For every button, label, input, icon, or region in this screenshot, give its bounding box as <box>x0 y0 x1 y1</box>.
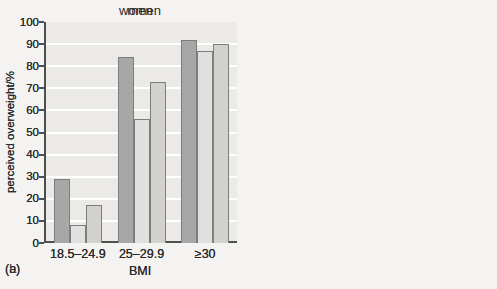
y-tick-label: 10 <box>13 214 39 227</box>
y-tick-label: 90 <box>13 38 39 51</box>
y-tick <box>39 87 44 89</box>
figure: men perceived overweight/% BMI (a) 01020… <box>0 0 497 289</box>
y-tick <box>39 220 44 222</box>
gridline <box>46 43 237 45</box>
y-tick-label: 80 <box>13 60 39 73</box>
panel-women: women perceived overweight/% BMI (b) 010… <box>0 0 249 289</box>
y-tick <box>39 43 44 45</box>
y-tick <box>39 132 44 134</box>
bar-white <box>54 179 70 243</box>
x-axis-title: BMI <box>129 264 151 278</box>
y-tick-label: 50 <box>13 126 39 139</box>
bar-hispanic <box>213 44 229 243</box>
chart-title: women <box>119 3 161 18</box>
y-tick <box>39 21 44 23</box>
bar-white <box>181 40 197 243</box>
y-tick <box>39 154 44 156</box>
y-tick-label: 20 <box>13 192 39 205</box>
y-tick-label: 60 <box>13 104 39 117</box>
bar-hispanic <box>86 205 102 243</box>
y-tick <box>39 65 44 67</box>
y-tick-label: 70 <box>13 82 39 95</box>
y-tick <box>39 109 44 111</box>
y-tick-label: 40 <box>13 148 39 161</box>
bar-black <box>197 51 213 243</box>
y-tick-label: 100 <box>13 16 39 29</box>
bar-black <box>134 119 150 243</box>
bar-black <box>70 225 86 243</box>
y-tick <box>39 176 44 178</box>
y-tick-label: 30 <box>13 170 39 183</box>
bar-hispanic <box>150 82 166 243</box>
y-tick <box>39 198 44 200</box>
panel-letter: (b) <box>5 262 20 276</box>
x-tick-label: ≥30 <box>157 247 253 261</box>
bar-white <box>118 57 134 243</box>
y-tick <box>39 242 44 244</box>
